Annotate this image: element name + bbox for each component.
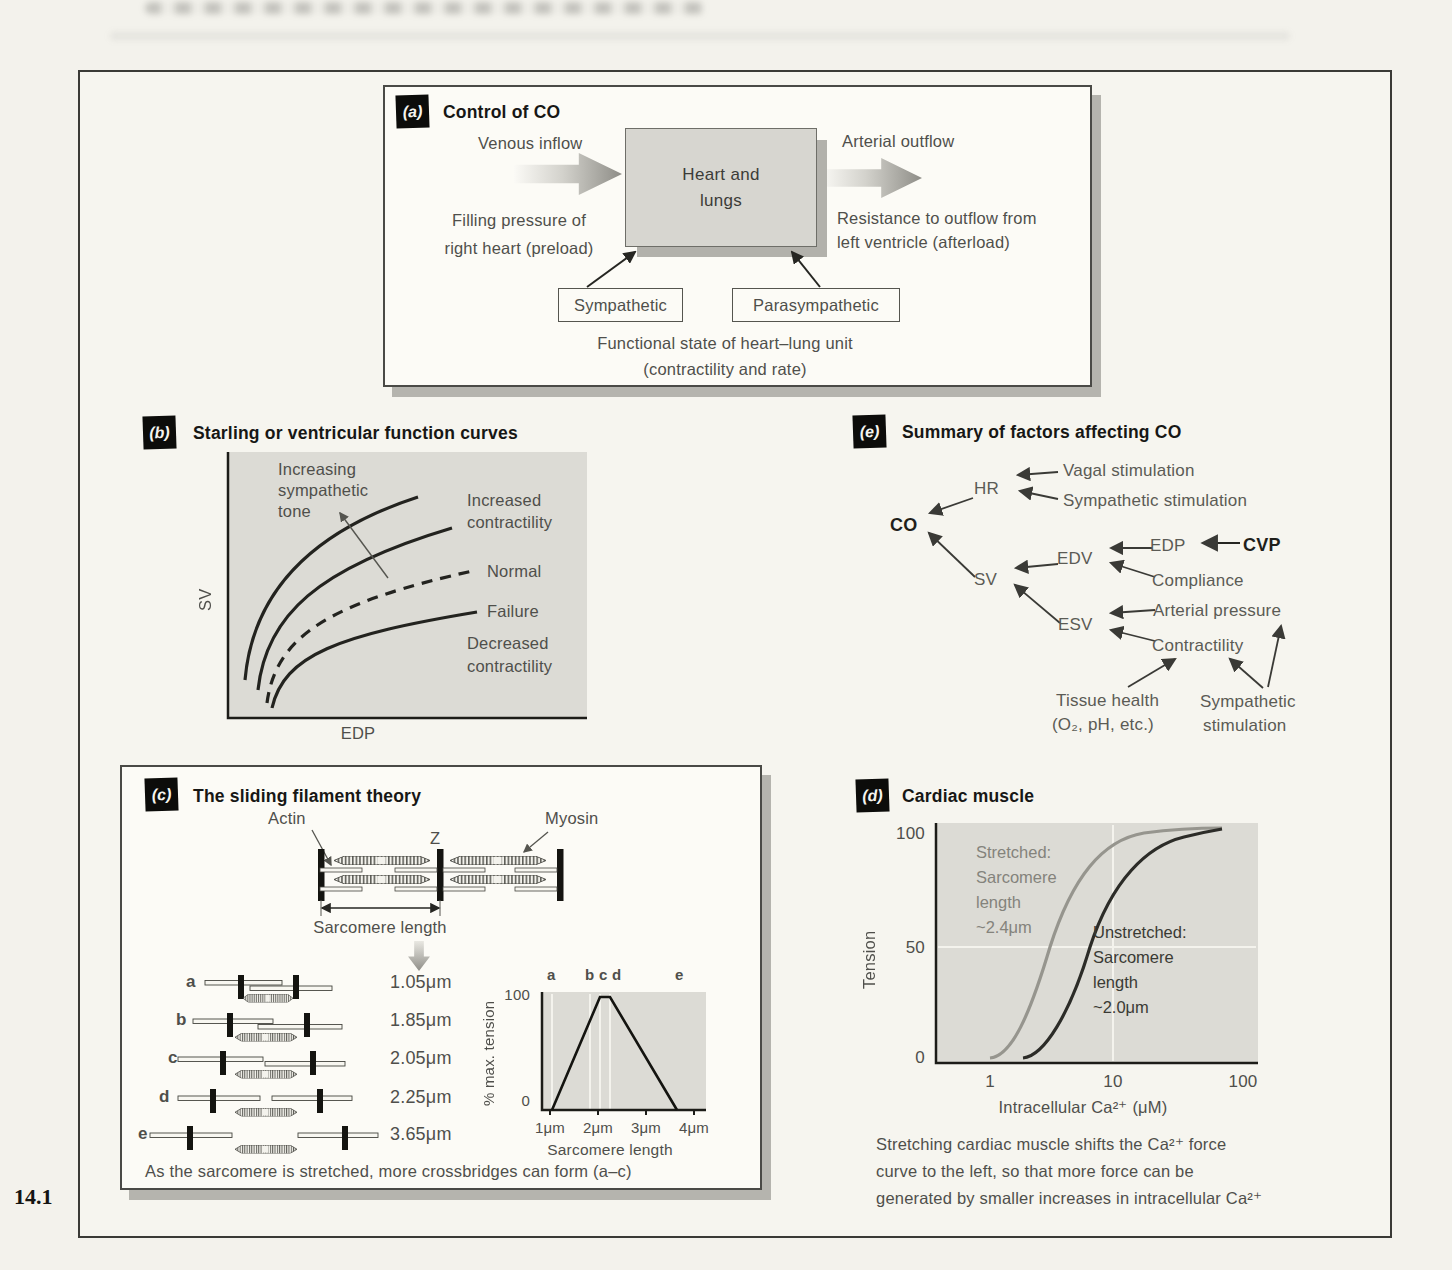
node-symp-bottom-2: stimulation: [1203, 716, 1286, 736]
node-symp-bottom: Sympathetic: [1200, 692, 1296, 712]
node-sv: SV: [974, 570, 997, 590]
node-cvp: CVP: [1243, 535, 1281, 556]
normal-label: Normal: [487, 562, 541, 581]
node-hr: HR: [974, 479, 999, 499]
sarcomere-diagram: [300, 845, 570, 905]
inset-xtick-2: 2μm: [576, 1119, 620, 1136]
node-vagal: Vagal stimulation: [1063, 461, 1195, 481]
d-ytick-100: 100: [880, 824, 925, 844]
panel-b-title: Starling or ventricular function curves: [193, 423, 518, 444]
increasing-tone-label: Increasing sympathetic tone: [278, 459, 368, 522]
row-a-glyph: [205, 975, 332, 1003]
sympathetic-box: Sympathetic: [558, 288, 683, 322]
sarcomere-length-arrow: [300, 900, 570, 918]
d-xlabel: Intracellular Ca²⁺ (μM): [958, 1098, 1208, 1117]
panel-d-badge: (d): [855, 778, 889, 812]
node-tissue-health-2: (O₂, pH, etc.): [1052, 715, 1154, 735]
venous-inflow-label: Venous inflow: [478, 134, 582, 153]
node-esv: ESV: [1058, 615, 1093, 635]
d-ytick-0: 0: [896, 1048, 925, 1068]
node-co: CO: [890, 515, 917, 536]
d-ytick-50: 50: [888, 938, 925, 958]
arterial-outflow-label: Arterial outflow: [842, 132, 954, 151]
figure-number: 14.1: [14, 1184, 53, 1210]
row-letter: e: [138, 1124, 148, 1144]
inset-xtick-3: 3μm: [624, 1119, 668, 1136]
length-tension-chart: [536, 988, 712, 1116]
row-b-glyph: [193, 1013, 342, 1042]
row-value: 1.05μm: [390, 972, 452, 993]
panel-e-badge: (e): [852, 414, 886, 448]
row-letter: b: [176, 1010, 187, 1030]
node-arterial-pressure: Arterial pressure: [1153, 601, 1281, 621]
d-xtick-100: 100: [1223, 1072, 1263, 1092]
inset-xlabel: Sarcomere length: [530, 1141, 690, 1159]
node-contractility: Contractility: [1152, 636, 1243, 656]
panel-c-caption: As the sarcomere is stretched, more cros…: [145, 1162, 632, 1181]
inset-xtick-1: 1μm: [528, 1119, 572, 1136]
chart-point-label-d: d: [612, 966, 621, 983]
scan-smudge-top: [145, 2, 705, 14]
scanned-textbook-page: (a) Control of CO Venous inflow Arterial…: [0, 0, 1452, 1270]
chart-point-label-c: c: [599, 966, 608, 983]
row-value: 2.25μm: [390, 1087, 452, 1108]
row-c-glyph: [178, 1051, 345, 1079]
d-xtick-10: 10: [1098, 1072, 1128, 1092]
row-letter: d: [159, 1087, 170, 1107]
panel-d-title: Cardiac muscle: [902, 786, 1034, 807]
heart-lungs-line1: Heart and: [682, 165, 759, 185]
heart-lungs-box: Heart and lungs: [625, 128, 817, 247]
row-letter: a: [186, 972, 196, 992]
inset-xtick-4: 4μm: [672, 1119, 716, 1136]
d-ylabel: Tension: [860, 915, 879, 1005]
sarcomere-length-label: Sarcomere length: [300, 918, 460, 937]
panel-c-badge: (c): [144, 777, 178, 811]
stretched-label: Stretched: Sarcomere length ~2.4μm: [976, 840, 1057, 940]
inset-ytick-100: 100: [496, 986, 530, 1003]
sv-axis-label: SV: [196, 576, 215, 624]
panel-c-title: The sliding filament theory: [193, 786, 421, 807]
row-value: 3.65μm: [390, 1124, 452, 1145]
d-xtick-1: 1: [980, 1072, 1000, 1092]
row-e-glyph: [150, 1126, 378, 1154]
inset-ylabel: % max. tension: [480, 990, 497, 1116]
panel-b-badge: (b): [142, 415, 176, 449]
heart-lungs-line2: lungs: [700, 191, 742, 211]
increased-contractility-label: Increased contractility: [467, 489, 552, 533]
inset-ytick-0: 0: [508, 1092, 530, 1109]
edp-axis-label: EDP: [328, 724, 388, 743]
row-d-glyph: [178, 1089, 352, 1117]
failure-label: Failure: [487, 602, 539, 621]
node-edv: EDV: [1057, 549, 1093, 569]
functional-state-label: Functional state of heart–lung unit (con…: [545, 330, 905, 382]
node-symp-top: Sympathetic stimulation: [1063, 491, 1247, 511]
panel-a-badge: (a): [395, 94, 429, 128]
parasympathetic-box: Parasympathetic: [732, 288, 900, 322]
panel-a-title: Control of CO: [443, 102, 560, 123]
scan-smudge-second: [110, 32, 1290, 40]
unstretched-label: Unstretched: Sarcomere length ~2.0μm: [1093, 920, 1187, 1020]
row-value: 2.05μm: [390, 1048, 452, 1069]
decreased-contractility-label: Decreased contractility: [467, 632, 552, 678]
panel-e-title: Summary of factors affecting CO: [902, 422, 1181, 443]
node-edp: EDP: [1150, 536, 1186, 556]
chart-point-label-a: a: [547, 966, 556, 983]
node-tissue-health: Tissue health: [1056, 691, 1159, 711]
node-compliance: Compliance: [1152, 571, 1244, 591]
chart-point-label-b: b: [585, 966, 594, 983]
chart-point-label-e: e: [675, 966, 684, 983]
row-letter: c: [168, 1048, 178, 1068]
row-value: 1.85μm: [390, 1010, 452, 1031]
panel-d-caption: Stretching cardiac muscle shifts the Ca²…: [876, 1131, 1262, 1212]
autonomic-arrows: [555, 240, 895, 295]
